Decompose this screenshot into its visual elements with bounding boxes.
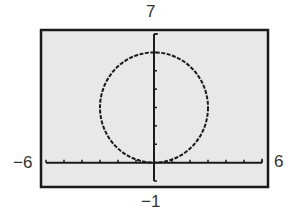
graph-screen [0, 0, 298, 215]
